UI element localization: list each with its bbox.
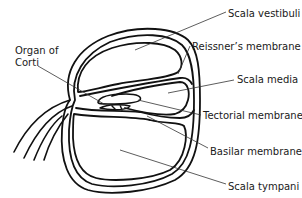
label-organ-of-corti-line2: Corti — [15, 57, 39, 68]
label-scala-media: Scala media — [237, 74, 298, 85]
label-tectorial-membrane: Tectorial membrane — [202, 110, 302, 121]
label-scala-vestibuli: Scala vestibuli — [228, 8, 300, 19]
label-reissners-membrane: Reissner’s membrane — [192, 41, 301, 52]
cochlea-diagram: Scala vestibuli Reissner’s membrane Scal… — [0, 0, 302, 198]
label-basilar-membrane: Basilar membrane — [210, 146, 302, 157]
label-scala-tympani: Scala tympani — [228, 181, 299, 192]
label-organ-of-corti-line1: Organ of — [15, 45, 59, 56]
